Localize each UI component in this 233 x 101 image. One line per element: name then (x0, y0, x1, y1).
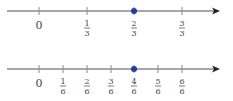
tick-label: 0 (36, 19, 43, 32)
numerator: 2 (84, 77, 89, 86)
denominator: 6 (155, 87, 160, 96)
denominator: 3 (84, 29, 89, 38)
denominator: 6 (131, 87, 136, 96)
fraction-label: 33 (179, 19, 185, 38)
marked-point (131, 8, 137, 14)
denominator: 6 (179, 87, 184, 96)
number-line-thirds: 0132333 (7, 7, 220, 38)
number-line-sixths: 0162636465666 (7, 65, 220, 96)
fraction-label: 13 (84, 19, 90, 38)
fraction-label: 46 (131, 77, 137, 96)
fraction-label: 66 (179, 77, 185, 96)
numerator: 6 (179, 77, 184, 86)
denominator: 3 (131, 29, 136, 38)
fraction-label: 16 (60, 77, 66, 96)
numerator: 2 (131, 19, 136, 28)
fraction-label: 36 (108, 77, 114, 96)
numerator: 4 (131, 77, 136, 86)
number-line-diagram: 01323330162636465666 (0, 0, 233, 101)
fraction-label: 26 (84, 77, 90, 96)
numerator: 3 (108, 77, 113, 86)
numerator: 1 (84, 19, 89, 28)
fraction-label: 23 (131, 19, 137, 38)
fraction-label: 56 (155, 77, 161, 96)
tick-label: 0 (36, 77, 43, 90)
denominator: 3 (179, 29, 184, 38)
marked-point (131, 66, 137, 72)
denominator: 6 (108, 87, 113, 96)
denominator: 6 (84, 87, 89, 96)
numerator: 1 (60, 77, 65, 86)
numerator: 3 (179, 19, 184, 28)
denominator: 6 (60, 87, 65, 96)
numerator: 5 (155, 77, 160, 86)
